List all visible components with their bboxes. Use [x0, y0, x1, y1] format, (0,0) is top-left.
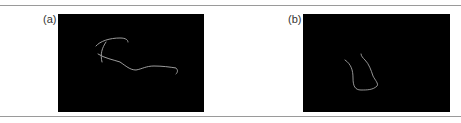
bottom-rule: [0, 116, 461, 117]
edge-contour-a: [58, 14, 204, 112]
panel-b-image: [303, 14, 450, 112]
panel-a-label: (a): [43, 14, 56, 25]
panel-a-image: [58, 14, 204, 112]
edge-contour-b: [303, 14, 450, 112]
panel-b-label: (b): [288, 14, 301, 25]
top-rule: [0, 5, 461, 6]
